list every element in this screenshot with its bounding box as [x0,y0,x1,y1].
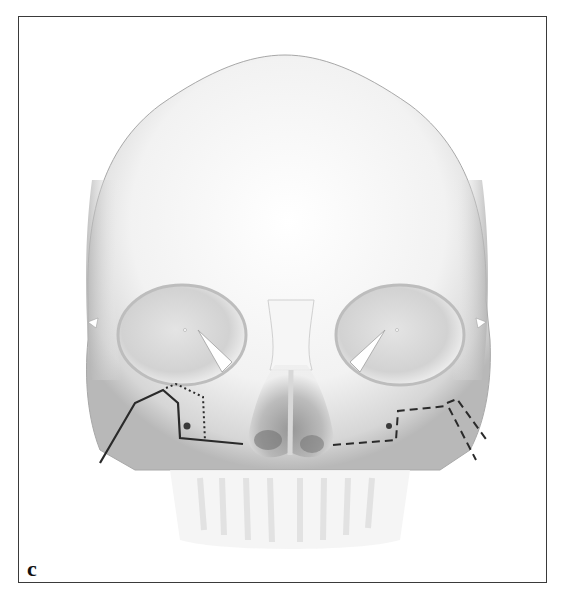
nasal-septum [290,370,291,455]
panel-label: c [27,558,37,580]
left-orbit-foramen [396,329,399,332]
left-infraorbital-foramen [386,423,392,429]
skull-figure [0,0,565,596]
right-orbit-foramen [184,329,187,332]
right-infraorbital-foramen [184,423,191,430]
nasal-bridge [268,300,314,370]
nasal-shadow-right [300,435,324,453]
left-orbit [336,285,464,385]
right-orbit [118,285,246,385]
nasal-shadow-left [254,430,282,450]
